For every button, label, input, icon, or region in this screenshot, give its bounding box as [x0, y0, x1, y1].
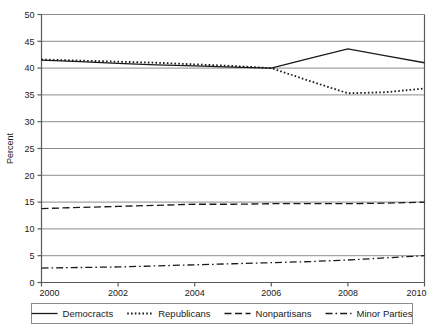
x-tick-label: 2004	[185, 288, 205, 298]
legend-label: Nonpartisans	[256, 308, 312, 319]
y-tick-label: 30	[24, 117, 34, 127]
x-tick-label: 2002	[108, 288, 128, 298]
line-chart: 05101520253035404550 2000200220042006200…	[0, 0, 433, 336]
chart-background	[0, 0, 433, 336]
y-tick-label: 20	[24, 171, 34, 181]
x-tick-label: 2000	[40, 288, 60, 298]
y-tick-label: 50	[24, 10, 34, 20]
x-tick-label: 2010	[406, 288, 426, 298]
y-tick-label: 25	[24, 144, 34, 154]
x-tick-label: 2008	[338, 288, 358, 298]
y-tick-label: 15	[24, 197, 34, 207]
legend-label: Democracts	[63, 308, 114, 319]
y-tick-label: 5	[29, 251, 34, 261]
y-axis-label: Percent	[5, 132, 15, 164]
y-tick-label: 0	[29, 278, 34, 288]
y-tick-label: 40	[24, 63, 34, 73]
y-tick-label: 10	[24, 224, 34, 234]
legend-label: Minor Parties	[357, 308, 413, 319]
y-tick-label: 45	[24, 37, 34, 47]
y-tick-label: 35	[24, 90, 34, 100]
legend-label: Republicans	[158, 308, 211, 319]
chart-legend: DemocractsRepublicansNonpartisansMinor P…	[32, 304, 413, 324]
figure-container: 05101520253035404550 2000200220042006200…	[0, 0, 433, 336]
x-tick-label: 2006	[261, 288, 281, 298]
